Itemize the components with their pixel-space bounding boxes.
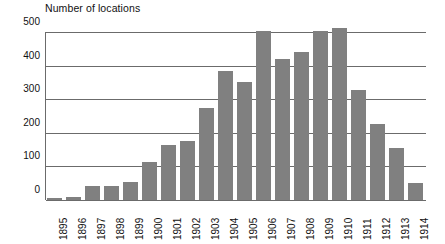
- bar[interactable]: [351, 90, 366, 200]
- x-axis-tick-label: 1907: [287, 218, 297, 240]
- x-axis-tick-label: 1898: [116, 218, 126, 240]
- x-axis-tick-label: 1904: [230, 218, 240, 240]
- y-axis-tick-label: 200: [6, 118, 40, 128]
- x-axis-tick-label: 1905: [249, 218, 259, 240]
- x-axis-tick-label: 1903: [211, 218, 221, 240]
- bar[interactable]: [85, 186, 100, 200]
- x-axis-tick-label: 1913: [401, 218, 411, 240]
- x-axis-tick-label: 1910: [344, 218, 354, 240]
- bar[interactable]: [389, 148, 404, 200]
- x-axis-tick-label: 1909: [325, 218, 335, 240]
- y-axis-tick-label: 300: [6, 84, 40, 94]
- x-axis-tick-label: 1899: [135, 218, 145, 240]
- bar[interactable]: [142, 162, 157, 200]
- bar[interactable]: [199, 108, 214, 200]
- x-axis-tick-label: 1902: [192, 218, 202, 240]
- bar[interactable]: [180, 141, 195, 200]
- x-axis-tick-label: 1897: [97, 218, 107, 240]
- y-axis-tick-label: 100: [6, 151, 40, 161]
- bar[interactable]: [408, 183, 423, 200]
- bar[interactable]: [104, 186, 119, 200]
- x-axis-tick-label: 1906: [268, 218, 278, 240]
- bar[interactable]: [370, 124, 385, 200]
- bar[interactable]: [237, 82, 252, 200]
- y-axis-tick-label: 400: [6, 51, 40, 61]
- y-axis-tick-label: 500: [6, 17, 40, 27]
- bar[interactable]: [123, 182, 138, 200]
- bar[interactable]: [256, 31, 271, 200]
- bar[interactable]: [161, 145, 176, 200]
- x-axis-tick-label: 1914: [420, 218, 430, 240]
- bar[interactable]: [275, 59, 290, 200]
- x-axis-tick-label: 1901: [173, 218, 183, 240]
- x-axis-tick-label: 1911: [363, 218, 373, 240]
- bar[interactable]: [332, 28, 347, 200]
- x-axis-tick-label: 1896: [78, 218, 88, 240]
- bar[interactable]: [313, 31, 328, 200]
- x-axis-tick-label: 1908: [306, 218, 316, 240]
- x-axis: 1895189618971898189919001901190219031904…: [45, 200, 425, 244]
- y-axis-tick-label: 0: [6, 185, 40, 195]
- bar-chart: Number of locations 0100200300400500 189…: [0, 0, 445, 244]
- bar[interactable]: [294, 52, 309, 200]
- bars-layer: [45, 32, 425, 200]
- bar[interactable]: [218, 71, 233, 200]
- chart-title: Number of locations: [45, 2, 140, 15]
- x-axis-tick-label: 1895: [59, 218, 69, 240]
- y-axis: 0100200300400500: [0, 32, 40, 200]
- x-axis-tick-label: 1900: [154, 218, 164, 240]
- x-axis-tick-label: 1912: [382, 218, 392, 240]
